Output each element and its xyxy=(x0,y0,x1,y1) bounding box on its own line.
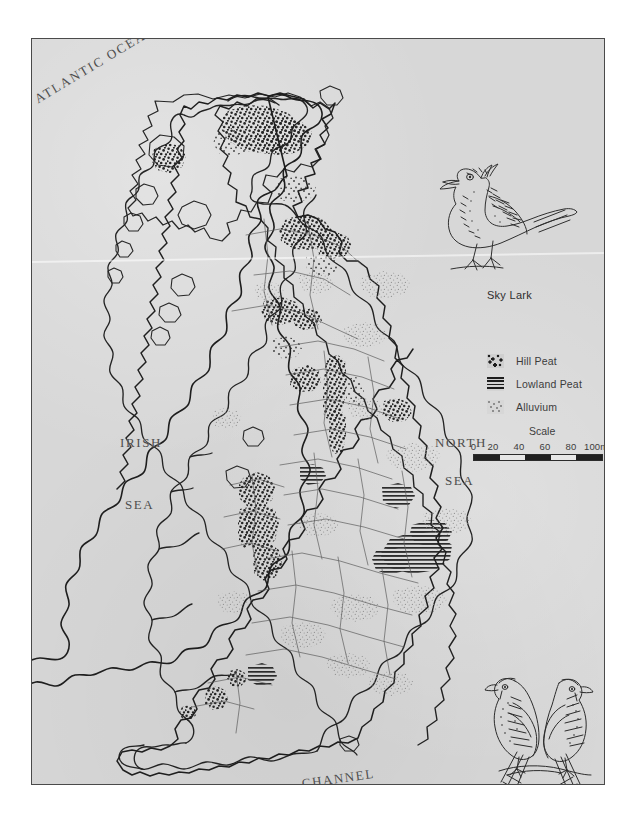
legend-label-alluvium: Alluvium xyxy=(516,401,557,413)
scale-segment xyxy=(576,455,602,460)
lowland-peat-swatch-icon xyxy=(487,377,504,391)
label-north-sea-line2: SEA xyxy=(445,473,474,489)
legend-row-lowland-peat: Lowland Peat xyxy=(487,374,605,393)
scale-segment xyxy=(500,455,526,460)
label-irish-sea-line2: SEA xyxy=(125,497,154,513)
scale-tick-20: 20 xyxy=(480,441,506,452)
sky-lark-caption: Sky Lark xyxy=(437,289,582,301)
map-page: ATLANTIC OCEAN IRISH SEA NORTH SEA ENGLI… xyxy=(0,0,634,824)
map-plate: ATLANTIC OCEAN IRISH SEA NORTH SEA ENGLI… xyxy=(31,38,605,785)
scale-tick-0: 0 xyxy=(467,441,480,452)
legend-row-alluvium: Alluvium xyxy=(487,397,605,416)
label-irish-sea-line1: IRISH xyxy=(120,435,162,451)
scale-segment xyxy=(474,455,500,460)
map-legend: Hill Peat Lowland Peat Alluvium Scale 0 … xyxy=(487,351,605,461)
scale-tick-60: 60 xyxy=(532,441,558,452)
scale-bar xyxy=(473,454,603,461)
hill-peat-swatch-icon xyxy=(487,354,504,368)
legend-label-lowland-peat: Lowland Peat xyxy=(516,378,582,390)
legend-label-hill-peat: Hill Peat xyxy=(516,355,557,367)
scale-tick-40: 40 xyxy=(506,441,532,452)
scale-tick-80: 80 xyxy=(558,441,584,452)
scale-segment xyxy=(551,455,577,460)
scale-bar-group: 0 20 40 60 80 100mls xyxy=(467,441,605,461)
legend-row-hill-peat: Hill Peat xyxy=(487,351,605,370)
scale-tick-100: 100mls xyxy=(584,441,605,452)
sky-lark-illustration xyxy=(437,144,582,279)
scale-title: Scale xyxy=(529,425,605,437)
alluvium-swatch-icon xyxy=(487,400,504,414)
scale-segment xyxy=(525,455,551,460)
scale-tick-labels: 0 20 40 60 80 100mls xyxy=(467,441,605,452)
kestrel-illustration xyxy=(477,651,605,785)
